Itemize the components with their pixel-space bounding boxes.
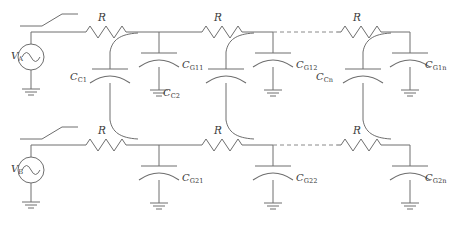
resistor-bottom-n <box>337 139 391 151</box>
cap-ccn-symbol <box>343 69 391 139</box>
resistor-top-1 <box>78 26 138 38</box>
cap-cc2-label: CC2 <box>163 88 180 98</box>
cap-cg22-label: CG22 <box>296 173 318 183</box>
resistor-bottom-n-label: R <box>353 125 361 136</box>
resistor-top-2 <box>194 26 254 38</box>
ground-source-a <box>22 89 40 95</box>
cap-cg11-symbol <box>139 32 179 96</box>
cap-cg1n-label: CG1n <box>425 60 447 70</box>
cap-cg22-symbol <box>253 145 293 209</box>
resistor-bottom-2 <box>194 139 254 151</box>
resistor-bottom-2-label: R <box>214 125 222 136</box>
cap-cg2n-symbol <box>390 145 430 209</box>
cap-cg12-label: CG12 <box>296 60 318 70</box>
resistor-top-n-label: R <box>353 12 361 23</box>
cap-cg21-label: CG21 <box>182 173 204 183</box>
cap-cg12-symbol <box>253 32 293 96</box>
cap-ccn-label: CCn <box>316 72 333 82</box>
coupling-branch-n-top <box>363 33 391 69</box>
switch-b-symbol <box>20 127 78 139</box>
resistor-top-n <box>337 26 391 38</box>
cap-cg21-symbol <box>139 145 179 209</box>
resistor-top-1-label: R <box>98 12 106 23</box>
source-a-label: VA <box>11 51 23 61</box>
resistor-bottom-1-label: R <box>98 125 106 136</box>
source-b-label: VB <box>11 164 23 174</box>
resistor-top-2-label: R <box>214 12 222 23</box>
circuit-diagram: VA VB R R R R R R CC1 CC2 CCn CG11 CG12 … <box>0 0 451 233</box>
cap-cc1-label: CC1 <box>70 72 87 82</box>
switch-a-symbol <box>20 14 78 26</box>
resistor-bottom-1 <box>78 139 138 151</box>
schematic-svg <box>0 0 451 233</box>
cap-cg11-label: CG11 <box>182 60 204 70</box>
cap-cg2n-label: CG2n <box>425 173 447 183</box>
ground-source-b <box>22 202 40 208</box>
cap-cg1n-symbol <box>390 32 430 96</box>
